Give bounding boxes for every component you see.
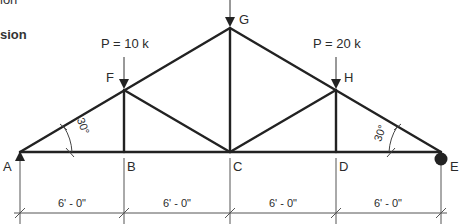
dimension-label-3: 6' - 0" bbox=[269, 197, 297, 209]
member-FC bbox=[124, 90, 230, 152]
node-label-D: D bbox=[339, 159, 348, 174]
dimension-label-1: 6' - 0" bbox=[58, 197, 86, 209]
node-label-A: A bbox=[3, 159, 12, 174]
load-label-H: P = 20 k bbox=[313, 36, 361, 51]
dimension-label-4: 6' - 0" bbox=[374, 197, 402, 209]
node-label-F: F bbox=[106, 70, 114, 85]
node-label-E: E bbox=[450, 159, 459, 174]
arrow-head-G bbox=[225, 17, 235, 27]
roller-support-icon bbox=[435, 153, 448, 166]
dimension-label-2: 6' - 0" bbox=[163, 197, 191, 209]
node-label-G: G bbox=[239, 12, 249, 27]
load-label-F: P = 10 k bbox=[101, 36, 149, 51]
node-label-B: B bbox=[127, 159, 136, 174]
dimension-extension-lines bbox=[20, 158, 441, 224]
node-label-H: H bbox=[344, 70, 353, 85]
angle-label-left: 30° bbox=[75, 116, 92, 136]
node-label-C: C bbox=[233, 159, 242, 174]
truss-diagram: 30° 30° P = 10 k P = 20 k A B C D E F G … bbox=[0, 0, 461, 224]
member-HC bbox=[230, 90, 336, 152]
angle-label-right: 30° bbox=[371, 123, 388, 143]
